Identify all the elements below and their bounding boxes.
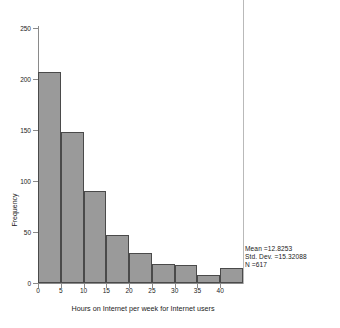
x-tick-label-20: 20 <box>118 287 140 295</box>
plot-right-border <box>243 0 244 284</box>
y-tick-label-100: 100 <box>20 178 31 185</box>
bar-35-40 <box>197 275 220 283</box>
stat-stddev: Std. Dev. =15.32088 <box>245 253 307 261</box>
stat-n: N =617 <box>245 261 307 269</box>
bar-15-20 <box>106 235 129 283</box>
x-tick-label-10: 10 <box>73 287 95 295</box>
x-tick-label-15: 15 <box>95 287 117 295</box>
y-tick-label-0: 0 <box>27 280 31 287</box>
stat-mean: Mean =12.8253 <box>245 245 307 253</box>
bar-5-10 <box>61 132 84 283</box>
bars-container <box>38 28 243 283</box>
x-tick-label-0: 0 <box>27 287 49 295</box>
x-tick-label-25: 25 <box>141 287 163 295</box>
y-axis-title: Frequency <box>11 155 19 265</box>
histogram-chart: 250 200 150 100 50 0 0 5 10 15 20 25 30 … <box>0 0 340 328</box>
bar-30-35 <box>175 265 198 283</box>
x-tick-label-35: 35 <box>186 287 208 295</box>
y-axis-title-holder: Frequency <box>6 110 18 200</box>
x-tick-label-5: 5 <box>50 287 72 295</box>
bar-40-45 <box>220 268 243 283</box>
x-axis-line <box>37 283 244 284</box>
y-tick-label-150: 150 <box>20 127 31 134</box>
y-tick-label-200: 200 <box>20 76 31 83</box>
y-tick-label-250: 250 <box>20 25 31 32</box>
x-tick-label-40: 40 <box>209 287 231 295</box>
bar-20-25 <box>129 253 152 283</box>
statistics-annotation: Mean =12.8253 Std. Dev. =15.32088 N =617 <box>245 245 307 270</box>
bar-0-5 <box>38 72 61 283</box>
x-axis-title: Hours on Internet per week for Internet … <box>0 304 286 313</box>
bar-25-30 <box>152 264 175 283</box>
y-tick-label-50: 50 <box>24 229 31 236</box>
bar-10-15 <box>84 191 107 283</box>
x-tick-label-30: 30 <box>164 287 186 295</box>
